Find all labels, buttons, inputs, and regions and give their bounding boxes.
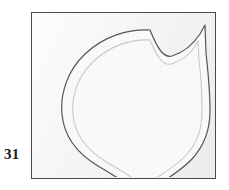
plate-frame: [31, 12, 216, 179]
plate-page: 31: [0, 0, 229, 190]
outline-drawing: [32, 13, 214, 177]
figure-number-label: 31: [4, 145, 28, 163]
